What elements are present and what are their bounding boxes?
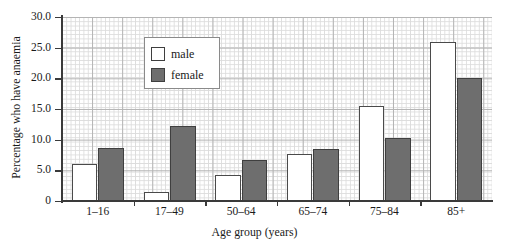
bar-female-50–64 [242,160,268,201]
legend-swatch-female [151,68,165,82]
x-axis-label: Age group (years) [0,225,509,240]
y-axis-label: Percentage who have anaemia [9,8,24,208]
bar-female-65–74 [313,149,339,201]
grid-major [62,17,492,201]
bar-female-75–84 [385,138,411,201]
bar-female-17–49 [170,126,196,201]
legend-label-male: male [171,48,194,60]
y-tick-mark [55,17,62,18]
y-tick-mark [55,78,62,79]
legend-item-female: female [151,64,219,85]
x-tick-mark [420,200,421,206]
x-tick-label: 75–84 [349,206,421,218]
bar-male-1–16 [72,164,98,201]
x-tick-label: 1–16 [62,206,134,218]
y-tick-mark [55,201,62,202]
x-tick-label: 17–49 [134,206,206,218]
bar-female-1–16 [98,148,124,201]
y-tick-mark [55,170,62,171]
x-tick-label: 50–64 [205,206,277,218]
x-tick-mark [349,200,350,206]
bar-male-50–64 [215,175,241,201]
y-tick-mark [55,48,62,49]
legend-item-male: male [151,43,219,64]
bar-male-65–74 [287,154,313,201]
legend-swatch-male [151,47,165,61]
chart-legend: male female [144,37,220,89]
bar-female-85+ [457,78,483,201]
bar-male-85+ [430,42,456,201]
x-tick-mark [134,200,135,206]
y-tick-mark [55,109,62,110]
x-tick-label: 85+ [420,206,492,218]
x-tick-mark [277,200,278,206]
plot-area: male female [62,17,492,201]
x-tick-label: 65–74 [277,206,349,218]
legend-label-female: female [171,69,204,81]
x-tick-mark [205,200,206,206]
bar-male-75–84 [359,106,385,201]
bar-chart: male female 05.010.015.020.025.030.0 1–1… [0,0,509,245]
y-tick-mark [55,140,62,141]
